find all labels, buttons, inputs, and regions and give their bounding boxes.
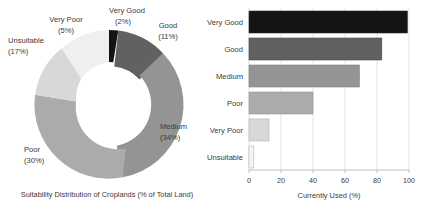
donut-callout-very-poor-label: Very Poor [49, 15, 83, 24]
donut-callout-good: Good (11%) [158, 21, 178, 41]
bar-very-good[interactable] [249, 11, 407, 33]
cat-label-very-good: Very Good [207, 18, 243, 27]
donut-callout-very-good-label: Very Good [109, 6, 145, 15]
bar-unsuitable[interactable] [249, 146, 254, 168]
donut-callout-very-poor: Very Poor (5%) [49, 15, 83, 35]
x-axis-tick-labels: 0 20 40 60 80 100 [247, 176, 415, 185]
bar-chart-bars [249, 11, 407, 168]
donut-callout-medium-label: Medium [160, 122, 187, 131]
x-axis-ticks [249, 170, 409, 173]
donut-callout-good-label: Good [159, 21, 178, 30]
cat-label-poor: Poor [227, 99, 244, 108]
donut-callout-medium-pct: (34%) [160, 133, 181, 142]
cat-label-good: Good [224, 45, 243, 54]
bar-chart-panel: Very Good Good Medium Poor Very Poor Uns… [195, 0, 429, 219]
bar-good[interactable] [249, 38, 382, 60]
cat-label-medium: Medium [216, 72, 243, 81]
figure-root: Very Poor (5%) Very Good (2%) Good (11%)… [0, 0, 429, 219]
tick-label-20: 20 [277, 176, 285, 185]
donut-callout-unsuitable-pct: (17%) [8, 47, 29, 56]
tick-label-60: 60 [341, 176, 349, 185]
tick-label-100: 100 [403, 176, 415, 185]
cat-label-very-poor: Very Poor [210, 126, 244, 135]
donut-callout-very-good: Very Good (2%) [109, 6, 145, 26]
tick-label-0: 0 [247, 176, 251, 185]
donut-callout-good-pct: (11%) [158, 32, 178, 41]
donut-slices [34, 30, 183, 179]
donut-caption: Suitability Distribution of Croplands (%… [21, 190, 193, 199]
donut-chart-panel: Very Poor (5%) Very Good (2%) Good (11%)… [0, 0, 215, 219]
tick-label-40: 40 [309, 176, 317, 185]
bar-chart-svg: Very Good Good Medium Poor Very Poor Uns… [195, 0, 429, 219]
bar-very-poor[interactable] [249, 119, 269, 141]
bar-poor[interactable] [249, 92, 313, 114]
bar-chart-category-labels: Very Good Good Medium Poor Very Poor Uns… [207, 18, 243, 162]
donut-callout-unsuitable: Unsuitable (17%) [8, 36, 44, 56]
donut-callout-poor-label: Poor [24, 145, 41, 154]
donut-slice-medium[interactable] [117, 53, 184, 177]
tick-label-80: 80 [373, 176, 381, 185]
donut-callout-very-good-pct: (2%) [115, 17, 132, 26]
donut-callout-poor: Poor (30%) [24, 145, 45, 165]
cat-label-unsuitable: Unsuitable [207, 153, 243, 162]
donut-slice-poor[interactable] [34, 95, 125, 179]
donut-chart-svg: Very Poor (5%) Very Good (2%) Good (11%)… [0, 0, 215, 219]
donut-callout-unsuitable-label: Unsuitable [8, 36, 44, 45]
x-axis-title: Currently Used (%) [298, 191, 361, 200]
donut-callout-very-poor-pct: (5%) [58, 26, 75, 35]
bar-medium[interactable] [249, 65, 359, 87]
donut-callout-poor-pct: (30%) [24, 156, 45, 165]
